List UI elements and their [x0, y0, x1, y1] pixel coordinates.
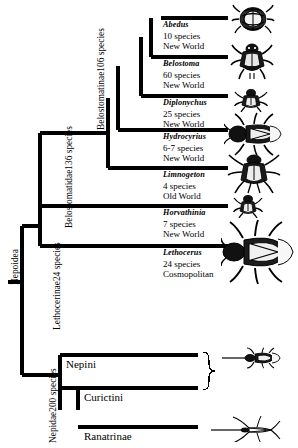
taxon-distribution: Old World: [163, 191, 205, 202]
clade-label-belostomatidae-line1: Belostomatidae: [64, 170, 75, 228]
taxon-genus: Belostoma: [163, 59, 204, 70]
giant-water-bug-limnogeton-icon: [226, 150, 282, 194]
taxon-genus: Diplonychus: [163, 98, 207, 109]
taxon-belostoma: Belostoma 60 species New World: [163, 59, 204, 91]
taxon-curictini-label: Curictini: [84, 391, 123, 403]
clade-label-nepoidea-text: Nepoidea: [10, 249, 20, 285]
clade-label-belostomatinae-line1: Belostomatinae: [96, 72, 107, 130]
taxon-species-count: 25 species: [163, 109, 207, 120]
taxon-distribution: New World: [163, 80, 204, 91]
giant-water-bug-horvathinia-icon: [231, 192, 265, 218]
taxon-nepini: Nepini: [66, 358, 96, 370]
clade-label-lethocerinae-line1: Lethocerinae: [52, 281, 63, 330]
clade-label-lethocerinae: 24 species Lethocerinae: [52, 242, 63, 330]
clade-label-belostomatidae-line2: 136 species: [64, 126, 75, 169]
taxon-distribution: Cosmopolitan: [163, 269, 214, 280]
nepini-curictini-brace: [203, 352, 215, 390]
taxon-curictini: Curictini: [84, 391, 123, 403]
taxon-species-count: 7 species: [163, 219, 206, 230]
taxon-distribution: New World: [163, 41, 204, 52]
taxon-diplonychus: Diplonychus 25 species New World: [163, 98, 207, 130]
giant-water-bug-diplonychus-icon: [233, 86, 269, 112]
taxon-genus: Horvathinia: [163, 208, 206, 219]
clade-label-nepidae-line2: 200 species: [48, 368, 59, 411]
clade-label-belostomatidae: 136 species Belostomatidae: [64, 126, 75, 228]
taxon-species-count: 4 species: [163, 181, 205, 192]
clade-label-lethocerinae-line2: 24 species: [52, 242, 63, 281]
water-stick-insect-ranatra-icon: [211, 414, 281, 442]
giant-water-bug-lethocerus-icon: [221, 218, 297, 286]
clade-label-belostomatinae-line2: 106 species: [96, 28, 107, 71]
taxon-genus: Lethocerus: [163, 248, 214, 259]
taxon-species-count: 6-7 species: [163, 143, 206, 154]
taxon-genus: Limnogeton: [163, 170, 205, 181]
taxon-ranatrinae-label: Ranatrinae: [84, 430, 132, 442]
taxon-genus: Hydrocyrius: [163, 132, 206, 143]
taxon-species-count: 24 species: [163, 259, 214, 270]
taxon-distribution: New World: [163, 119, 207, 130]
taxon-species-count: 60 species: [163, 70, 204, 81]
taxon-ranatrinae: Ranatrinae: [84, 430, 132, 442]
clade-label-nepoidea: Nepoidea: [10, 249, 21, 285]
water-scorpion-nepini-icon: [222, 347, 282, 369]
taxon-distribution: New World: [163, 153, 206, 164]
taxon-species-count: 10 species: [163, 31, 204, 42]
clade-label-belostomatinae: 106 species Belostomatinae: [96, 28, 107, 130]
giant-water-bug-abedus-icon: [231, 2, 275, 36]
taxon-lethocerus: Lethocerus 24 species Cosmopolitan: [163, 248, 214, 280]
clade-label-nepidae: 200 species Nepidae: [48, 368, 59, 443]
taxon-distribution: New World: [163, 229, 206, 240]
taxon-hydrocyrius: Hydrocyrius 6-7 species New World: [163, 132, 206, 164]
giant-water-bug-belostoma-icon: [229, 40, 275, 80]
taxon-genus: Abedus: [163, 20, 204, 31]
clade-label-nepidae-line1: Nepidae: [48, 412, 59, 443]
taxon-limnogeton: Limnogeton 4 species Old World: [163, 170, 205, 202]
taxon-abedus: Abedus 10 species New World: [163, 20, 204, 52]
taxon-nepini-label: Nepini: [66, 358, 96, 370]
taxon-horvathinia: Horvathinia 7 species New World: [163, 208, 206, 240]
